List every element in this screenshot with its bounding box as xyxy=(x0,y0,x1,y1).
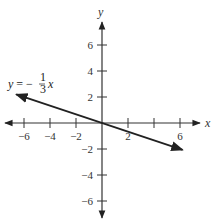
equation-variable: x xyxy=(47,77,54,91)
y-tick-label: 2 xyxy=(88,91,94,103)
x-tick-label: 6 xyxy=(177,130,183,142)
svg-text:xy = −: xy = − xyxy=(7,77,33,91)
y-tick-label: −6 xyxy=(81,195,93,207)
line-series xyxy=(16,94,182,150)
x-tick-labels: −6−4−226 xyxy=(18,130,183,142)
equation-label: xy = − 1 3 x xyxy=(7,70,54,96)
coordinate-plane: −6−4−226 642−2−4−6 x y xy = − 1 3 x xyxy=(0,0,214,220)
x-tick-label: −6 xyxy=(18,130,30,142)
y-tick-label: 6 xyxy=(88,39,94,51)
y-tick-label: −2 xyxy=(81,143,93,155)
x-tick-label: −2 xyxy=(70,130,82,142)
y-tick-label: 4 xyxy=(88,65,94,77)
fraction-denominator: 3 xyxy=(40,82,46,96)
x-axis-label: x xyxy=(204,116,211,130)
x-tick-label: −4 xyxy=(44,130,56,142)
y-axis-label: y xyxy=(97,5,104,19)
y-tick-label: −4 xyxy=(81,169,93,181)
